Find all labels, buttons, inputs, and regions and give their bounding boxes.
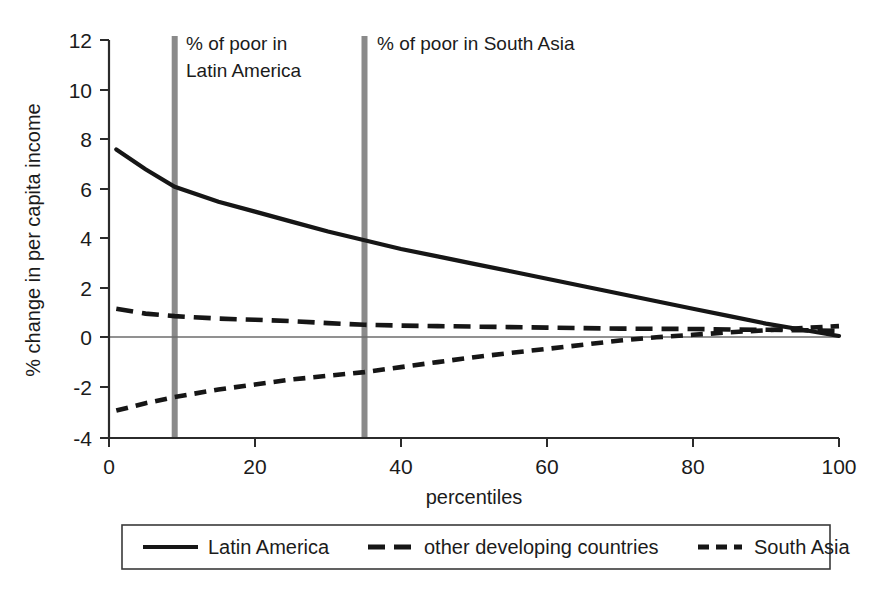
y-tick-label-12: 12 xyxy=(69,29,92,52)
x-tick-label-80: 80 xyxy=(681,455,704,478)
x-tick-label-0: 0 xyxy=(103,455,115,478)
series-other-developing-countries xyxy=(116,309,839,331)
latin-america-poor-marker-label-line1: % of poor in xyxy=(186,33,287,54)
chart-figure: 12 10 8 6 4 2 0 -2 -4 0 20 40 60 80 100 … xyxy=(0,0,893,599)
y-tick-label-4: 4 xyxy=(80,227,92,250)
y-tick-label-neg2: -2 xyxy=(73,376,92,399)
x-tick-label-100: 100 xyxy=(821,455,856,478)
y-tick-label-8: 8 xyxy=(80,128,92,151)
south-asia-poor-marker-label: % of poor in South Asia xyxy=(377,33,575,54)
chart-canvas: 12 10 8 6 4 2 0 -2 -4 0 20 40 60 80 100 … xyxy=(0,0,893,599)
x-axis-ticks xyxy=(109,438,839,447)
y-axis-ticks xyxy=(100,40,109,438)
x-axis-title: percentiles xyxy=(426,486,523,508)
latin-america-poor-marker-label-line2: Latin America xyxy=(186,60,302,81)
series-latin-america xyxy=(116,149,839,336)
legend-label-other-developing-countries: other developing countries xyxy=(424,536,659,558)
y-tick-label-2: 2 xyxy=(80,277,92,300)
x-tick-label-20: 20 xyxy=(243,455,266,478)
y-tick-label-0: 0 xyxy=(80,326,92,349)
y-tick-label-10: 10 xyxy=(69,79,92,102)
series-south-asia xyxy=(116,326,839,411)
x-tick-label-40: 40 xyxy=(389,455,412,478)
y-tick-label-neg4: -4 xyxy=(73,427,92,450)
latin-america-poor-marker-bar xyxy=(172,36,178,438)
south-asia-poor-marker-bar xyxy=(362,36,368,438)
legend-label-south-asia: South Asia xyxy=(754,536,851,558)
legend-label-latin-america: Latin America xyxy=(208,536,330,558)
x-tick-label-60: 60 xyxy=(535,455,558,478)
y-axis-title: % change in per capita income xyxy=(22,103,44,377)
y-tick-label-6: 6 xyxy=(80,178,92,201)
